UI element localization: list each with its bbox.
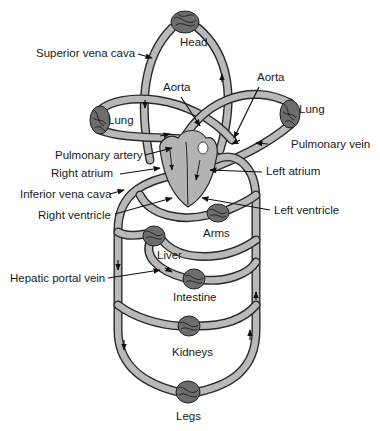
label-right-atrium: Right atrium [51, 167, 113, 179]
label-left-ventricle: Left ventricle [274, 204, 339, 216]
left-lung-capillary [90, 106, 110, 134]
flow-arrows [118, 74, 256, 350]
label-kidneys: Kidneys [172, 346, 213, 358]
liver-vessel [118, 232, 256, 257]
label-pulmonary-vein: Pulmonary vein [291, 138, 370, 150]
label-pulmonary-artery: Pulmonary artery [55, 149, 143, 161]
label-inferior-vena-cava: Inferior vena cava [20, 188, 112, 200]
inferior-vena-cava-leader [110, 190, 124, 194]
label-lung-right: Lung [299, 103, 325, 115]
right-lung-capillary [280, 100, 300, 128]
label-liver: Liver [157, 249, 182, 261]
legs-capillary [176, 381, 200, 403]
intestine-capillary [183, 269, 205, 289]
label-head: Head [180, 36, 208, 48]
label-aorta-center: Aorta [163, 81, 191, 93]
left-atrium-opening [198, 142, 208, 154]
label-legs: Legs [176, 410, 201, 422]
label-right-ventricle: Right ventricle [38, 209, 111, 221]
arms-capillary [207, 204, 229, 222]
head-capillary [171, 11, 199, 33]
label-lung-left: Lung [108, 114, 134, 126]
heart [160, 131, 217, 208]
label-left-atrium: Left atrium [266, 165, 320, 177]
label-superior-vena-cava: Superior vena cava [36, 47, 136, 59]
circulatory-diagram: Head Lung Lung Arms Liver Intestine Kidn… [0, 0, 380, 431]
liver-capillary [143, 226, 165, 246]
heart-body [160, 131, 217, 208]
label-intestine: Intestine [173, 291, 216, 303]
kidneys-capillary [178, 316, 200, 336]
label-aorta-right: Aorta [257, 71, 285, 83]
label-arms: Arms [203, 227, 230, 239]
label-hepatic-portal-vein: Hepatic portal vein [10, 272, 105, 284]
right-atrium-leader [120, 168, 160, 174]
